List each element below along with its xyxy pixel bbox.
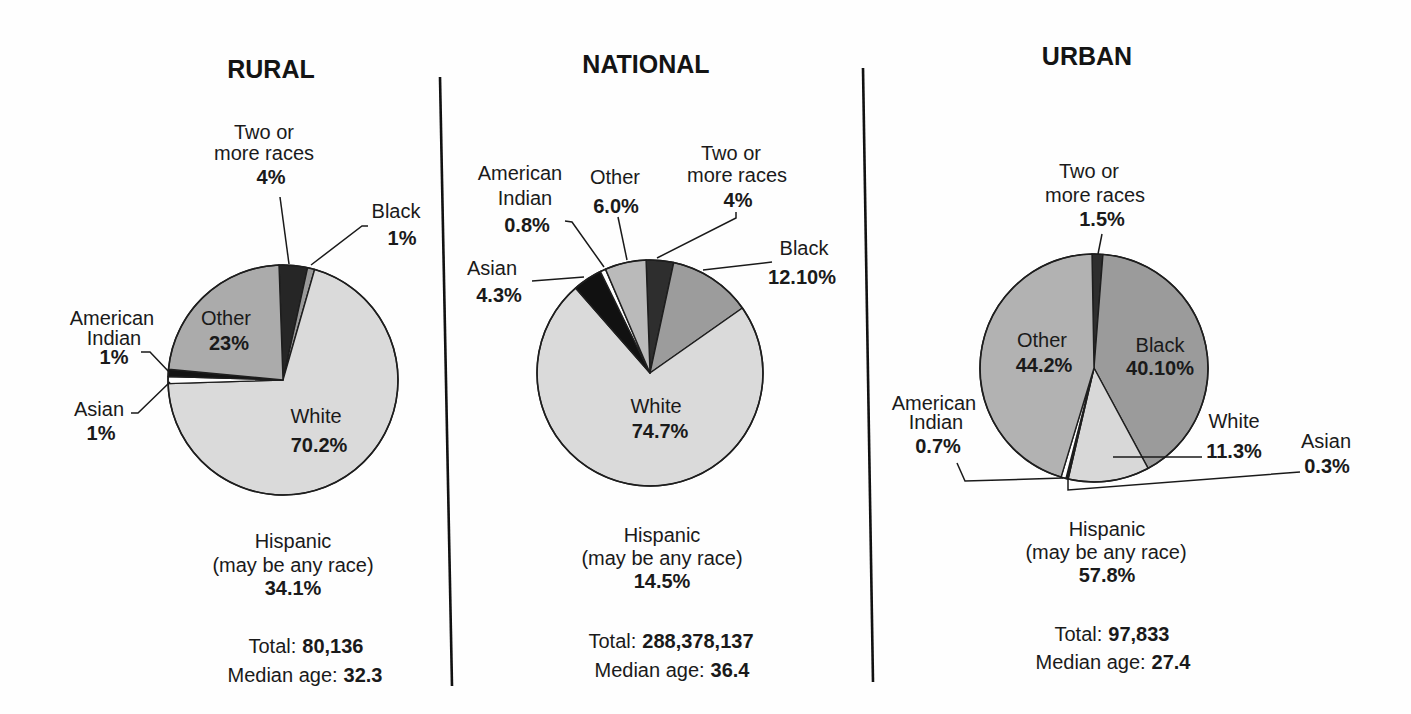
hispanic-label: Hispanic [624, 524, 701, 546]
label-text: American [478, 162, 562, 184]
chart-rural: RURAL Two or more races 4% Black 1% Whit… [70, 55, 422, 686]
label-text: Asian [74, 398, 124, 420]
total-value: 80,136 [302, 635, 363, 657]
leader-line-black [703, 262, 772, 270]
label-value: 0.3% [1304, 455, 1350, 477]
chart-title-national: NATIONAL [582, 50, 709, 78]
slice-label-asian: Asian 4.3% [467, 257, 522, 306]
median-age: Median age:32.3 [227, 664, 382, 686]
label-text: White [1208, 410, 1259, 432]
hispanic-qualifier: (may be any race) [581, 547, 742, 569]
hispanic-note: Hispanic (may be any race) 14.5% [581, 524, 742, 592]
slice-label-asian: Asian 0.3% [1301, 430, 1351, 477]
label-text: Indian [909, 411, 964, 433]
total-population: Total:97,833 [1055, 623, 1170, 645]
median-age-label: Median age: [227, 664, 337, 686]
hispanic-qualifier: (may be any race) [1025, 541, 1186, 563]
hispanic-qualifier: (may be any race) [212, 554, 373, 576]
leader-line-other [618, 217, 627, 260]
median-age-value: 36.4 [711, 659, 751, 681]
label-text: more races [687, 164, 787, 186]
slice-label-other: Other 6.0% [590, 166, 640, 217]
label-value: 6.0% [593, 195, 639, 217]
total-value: 288,378,137 [642, 630, 753, 652]
pie-national [537, 260, 763, 486]
label-text: Indian [498, 187, 553, 209]
slice-label-two-or-more: Two or more races 4% [214, 121, 314, 188]
median-age-label: Median age: [1035, 651, 1145, 673]
label-value: 12.10% [768, 266, 836, 288]
hispanic-label: Hispanic [255, 530, 332, 552]
label-value: 23% [209, 332, 249, 354]
hispanic-value: 14.5% [634, 570, 691, 592]
population-pie-figure: RURAL Two or more races 4% Black 1% Whit… [0, 0, 1411, 714]
leader-line-asian [532, 277, 584, 281]
label-text: Asian [1301, 430, 1351, 452]
label-text: more races [214, 142, 314, 164]
divider-right [863, 68, 873, 682]
label-value: 1% [388, 227, 417, 249]
hispanic-label: Hispanic [1069, 518, 1146, 540]
label-value: 70.2% [291, 434, 348, 456]
leader-line-two-or-more [1098, 234, 1102, 254]
total-population: Total:80,136 [249, 635, 364, 657]
label-text: Asian [467, 257, 517, 279]
leader-line-american-indian [565, 221, 604, 267]
label-value: 40.10% [1126, 357, 1194, 379]
median-age-value: 27.4 [1152, 651, 1192, 673]
label-value: 44.2% [1016, 354, 1073, 376]
total-value: 97,833 [1108, 623, 1169, 645]
label-value: 4% [257, 166, 286, 188]
label-text: Two or [234, 121, 294, 143]
slice-label-black: Black 40.10% [1126, 334, 1194, 379]
slice-label-american-indian: American Indian 0.8% [478, 162, 562, 236]
slice-label-black: Black 12.10% [768, 237, 836, 288]
label-text: White [290, 405, 341, 427]
chart-title-urban: URBAN [1042, 42, 1132, 70]
divider-left [440, 77, 452, 686]
slice-label-american-indian: American Indian 1% [70, 307, 154, 368]
leader-line-two-or-more [657, 212, 736, 258]
label-value: 1% [100, 346, 129, 368]
label-text: Two or [701, 142, 761, 164]
label-text: more races [1045, 184, 1145, 206]
chart-urban: URBAN Two or more races 1.5% Black 40.10… [892, 42, 1351, 673]
label-value: 4% [724, 189, 753, 211]
total-population: Total:288,378,137 [588, 630, 753, 652]
slice-label-black: Black 1% [372, 200, 422, 249]
chart-title-rural: RURAL [227, 55, 315, 83]
label-value: 0.7% [915, 435, 961, 457]
label-text: Two or [1059, 160, 1119, 182]
slice-label-two-or-more: Two or more races 4% [687, 142, 787, 211]
label-value: 0.8% [504, 214, 550, 236]
label-text: Black [1136, 334, 1186, 356]
label-value: 1% [87, 422, 116, 444]
total-label: Total: [249, 635, 297, 657]
pie-rural [168, 265, 398, 495]
label-text: Other [201, 307, 251, 329]
slice-label-asian: Asian 1% [74, 398, 124, 444]
leader-line-two-or-more [280, 197, 289, 264]
label-value: 11.3% [1206, 440, 1262, 462]
hispanic-note: Hispanic (may be any race) 34.1% [212, 530, 373, 599]
label-text: Other [1017, 329, 1067, 351]
hispanic-value: 34.1% [265, 577, 322, 599]
slice-label-american-indian: American Indian 0.7% [892, 392, 976, 457]
label-text: Other [590, 166, 640, 188]
leader-line-black [311, 226, 368, 265]
total-label: Total: [588, 630, 636, 652]
chart-national: NATIONAL Two or more races 4% Black 12.1… [467, 50, 836, 681]
median-age-value: 32.3 [344, 664, 383, 686]
label-value: 4.3% [476, 284, 522, 306]
leader-line-asian [131, 382, 170, 413]
label-text: White [630, 395, 681, 417]
label-value: 1.5% [1079, 208, 1125, 230]
hispanic-note: Hispanic (may be any race) 57.8% [1025, 518, 1186, 586]
label-text: American [70, 307, 154, 329]
leader-line-american-indian [141, 352, 170, 373]
slice-label-two-or-more: Two or more races 1.5% [1045, 160, 1145, 230]
label-value: 74.7% [632, 420, 689, 442]
label-text: Black [372, 200, 422, 222]
median-age: Median age:27.4 [1035, 651, 1191, 673]
total-label: Total: [1055, 623, 1103, 645]
